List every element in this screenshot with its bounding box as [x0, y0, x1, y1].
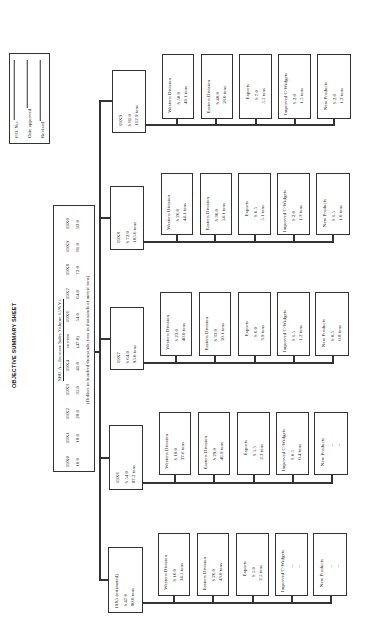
summary-year: 19X8 [65, 264, 71, 275]
year-dollars: $ 47.0 [123, 594, 129, 607]
child-box-exports: Exports $ 6.5 5.1 tons [238, 173, 271, 235]
child-name: Eastern Division [206, 80, 212, 113]
child-dollars: – [289, 565, 295, 568]
child-box-eastern: Eastern Division $ 33.0 50.1 tons [199, 292, 231, 356]
summary-value: 28.0 [75, 410, 81, 419]
child-dollars: $ 5.0 [251, 567, 257, 577]
child-tons: 49.1 tons [183, 86, 189, 104]
summary-value-row: 10.0 18.0 28.0 35.0 41.0 (47.0) 54.0 64.… [75, 212, 83, 467]
tick [293, 235, 295, 241]
child-name: Eastern Division [205, 197, 211, 230]
child-box-improved-c-widgets: Improved C-Widgets – – [275, 533, 308, 596]
tick [212, 596, 214, 602]
tick [214, 235, 216, 241]
summary-value: 10.0 [75, 458, 81, 467]
date-approved-label: Date approved [27, 109, 33, 138]
child-tons: – [336, 444, 342, 447]
child-tons: 0.8 tons [337, 325, 343, 341]
child-name: New Products [322, 199, 328, 227]
branch-19x8 [99, 217, 110, 219]
child-name: Eastern Division [203, 436, 209, 469]
summary-value: 81.0 [75, 243, 81, 252]
child-name: Exports [243, 440, 249, 456]
child-name: Exports [245, 84, 251, 100]
child-dollars: $ 0.5 [330, 331, 336, 341]
child-name: New Products [323, 82, 329, 110]
child-box-western: Western Division $ 26.0 44.1 tons [161, 173, 193, 235]
child-box-improved-c-widgets: Improved C-Widgets $ 2.0 1.5 tons [278, 54, 311, 119]
summary-value: 93.0 [75, 220, 81, 229]
child-tons: 1.0 tons [338, 205, 344, 221]
summary-year: 19X3 [65, 384, 71, 395]
tick [215, 119, 217, 125]
child-dollars: $ 6.5 [253, 207, 259, 217]
tick [292, 475, 294, 482]
child-tons: 40.0 tons [181, 323, 187, 341]
child-dollars: $ 33.0 [213, 329, 219, 342]
child-name: Exports [244, 321, 250, 337]
child-tons: 2.3 tons [259, 444, 265, 460]
branch-19x7 [99, 338, 110, 340]
child-tons: – [335, 565, 341, 568]
child-tons: 1.3 tons [298, 205, 304, 221]
year-dollars: $ 54.0 [124, 471, 130, 484]
child-name: Western Division [167, 78, 173, 113]
summary-year: current [65, 334, 71, 348]
child-name: Western Division [165, 315, 171, 350]
year-tons: 87.2 tons [131, 465, 137, 483]
child-box-new-products: New Products – – [314, 412, 348, 475]
approval-form-box: P.O. No. Date approved Revised [9, 53, 50, 144]
bus-19x6 [143, 482, 333, 484]
tick [176, 119, 178, 125]
summary-value: 72.0 [75, 266, 81, 275]
tick [174, 475, 176, 482]
summary-box: SBU A—Increase Sales Volume 15% Yr. 19X0… [53, 205, 95, 472]
summary-year: 19X0 [65, 218, 71, 229]
child-box-new-products: New Products $ 0.5 0.8 tons [315, 292, 349, 356]
tick [213, 475, 215, 482]
child-tons: – [296, 565, 302, 568]
tick [254, 356, 256, 362]
main-trunk [99, 100, 101, 581]
revised-field[interactable]: Revised [40, 60, 46, 138]
tick [176, 235, 178, 241]
year-box-19x6: 19X6 $ 54.0 87.2 tons [109, 425, 143, 490]
tick [331, 475, 333, 482]
bus-19x5 [143, 602, 332, 604]
child-tons: 58.0 tons [222, 86, 228, 104]
child-tons: 5.5 tons [261, 88, 267, 104]
year-box-19x7: 19X7 $ 64.0 95.0 tons [110, 307, 144, 370]
child-tons: 1.5 tons [299, 88, 305, 104]
tick [330, 596, 332, 602]
child-tons: 0.4 tons [297, 444, 303, 460]
year-box-19x9: 19X9 $ 81.0 112.9 tons [112, 70, 146, 133]
child-name: Improved C-Widgets [280, 550, 286, 592]
year-dollars: $ 81.0 [127, 114, 133, 127]
summary-value: 54.0 [75, 313, 81, 322]
child-dollars: $ 40.0 [215, 92, 221, 105]
child-tons: 2.5 tons [258, 565, 264, 581]
bus-19x7 [144, 362, 334, 364]
summary-year: 19X0 [65, 456, 71, 467]
summary-value: 41.0 [75, 362, 81, 371]
year-label: 19X7 [116, 352, 122, 363]
child-box-exports: Exports $ 5.5 2.3 tons [237, 412, 270, 475]
summary-year: 19X9 [65, 241, 71, 252]
child-name: Eastern Division [204, 317, 210, 350]
year-tons: 95.0 tons [132, 345, 138, 363]
child-dollars: $ 19.0 [173, 448, 179, 461]
child-box-improved-c-widgets: Improved C-Widgets $ 0.5 0.4 tons [276, 412, 309, 475]
summary-year: 19X6 [65, 311, 71, 322]
bus-19x9 [146, 124, 335, 126]
child-name: Improved C-Widgets [281, 429, 287, 471]
tick [294, 119, 296, 125]
date-approved-field[interactable]: Date approved [27, 60, 33, 138]
bus-19x8 [144, 241, 334, 243]
tick [255, 119, 257, 125]
year-box-19x5: 19X5 (estimated) $ 47.0 80.0 tons [108, 547, 143, 613]
child-name: Western Division [163, 555, 169, 590]
po-number-field[interactable]: P.O. No. [14, 60, 20, 138]
child-tons: 43.0 tons [218, 563, 224, 581]
child-dollars: $ 7.0 [254, 90, 260, 100]
child-box-western: Western Division $ 50.0 49.1 tons [162, 54, 194, 119]
